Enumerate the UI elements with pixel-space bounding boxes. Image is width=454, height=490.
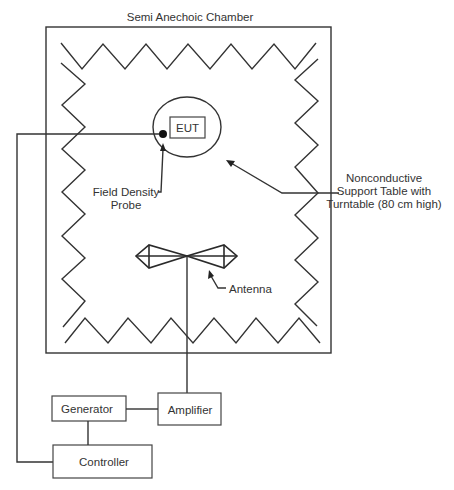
chamber-wall <box>46 27 331 353</box>
table-arrowhead <box>226 160 235 167</box>
absorber-top <box>61 43 316 69</box>
antenna-pointer <box>211 276 226 288</box>
eut-label: EUT <box>176 122 199 134</box>
amplifier-label: Amplifier <box>168 404 213 416</box>
controller-label: Controller <box>79 456 129 468</box>
probe-label-line1: Field Density <box>93 186 160 198</box>
antenna-label: Antenna <box>229 283 272 295</box>
chamber-title: Semi Anechoic Chamber <box>127 11 254 23</box>
probe-label-line2: Probe <box>111 199 142 211</box>
table-label-line1: Nonconductive <box>346 172 422 184</box>
antenna-arrowhead <box>208 270 214 279</box>
absorber-bottom <box>65 318 320 343</box>
table-pointer <box>231 163 339 193</box>
emc-test-setup-diagram: Semi Anechoic Chamber EUT Field Density … <box>0 0 454 490</box>
absorber-left <box>61 63 85 327</box>
field-probe-dot <box>159 130 167 138</box>
table-label-line3: Turntable (80 cm high) <box>326 198 441 210</box>
generator-label: Generator <box>61 403 113 415</box>
table-label-line2: Support Table with <box>337 185 431 197</box>
